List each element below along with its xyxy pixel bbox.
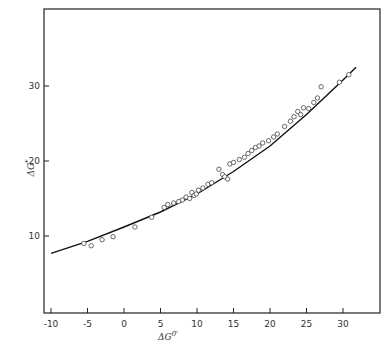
x-tick-label: 30 [337,319,349,329]
data-point [301,106,305,110]
fit-curve [51,67,356,253]
data-point [282,124,286,128]
x-tick-label: 20 [264,319,276,329]
x-tick-label: 15 [228,319,239,329]
x-tick-label: 5 [158,319,164,329]
y-tick-label: 30 [29,81,41,91]
y-tick-label: 10 [29,231,41,241]
data-point [225,177,229,181]
data-point [306,106,310,110]
data-point [231,160,235,164]
data-point [196,188,200,192]
data-points [82,73,351,248]
plot-frame [44,9,380,313]
data-point [319,85,323,89]
data-point [237,157,241,161]
data-point [337,80,341,84]
data-point [133,225,137,229]
data-point [217,167,221,171]
data-point [188,196,192,200]
data-point [100,238,104,242]
data-point [347,73,351,77]
data-point [288,119,292,123]
data-point [111,235,115,239]
x-tick-label: 0 [121,319,127,329]
data-point [166,202,170,206]
data-point [171,201,175,205]
data-point [315,96,319,100]
x-tick-label: 10 [191,319,203,329]
data-point [209,181,213,185]
data-point [242,155,246,159]
data-point [261,141,265,145]
x-axis-label: ΔG0' [157,330,178,342]
x-tick-label: -5 [83,319,92,329]
data-point [150,215,154,219]
x-tick-label: -10 [44,319,59,329]
data-point [292,115,296,119]
data-point [201,186,205,190]
data-point [298,112,302,116]
x-tick-label: 25 [301,319,312,329]
data-point [266,139,270,143]
data-point [82,241,86,245]
data-point [275,132,279,136]
data-point [89,244,93,248]
scatter-chart: -10-5051015202530 102030 ΔG0' ΔG* [0,0,387,352]
data-point [312,100,316,104]
x-axis: -10-5051015202530 [44,308,349,329]
